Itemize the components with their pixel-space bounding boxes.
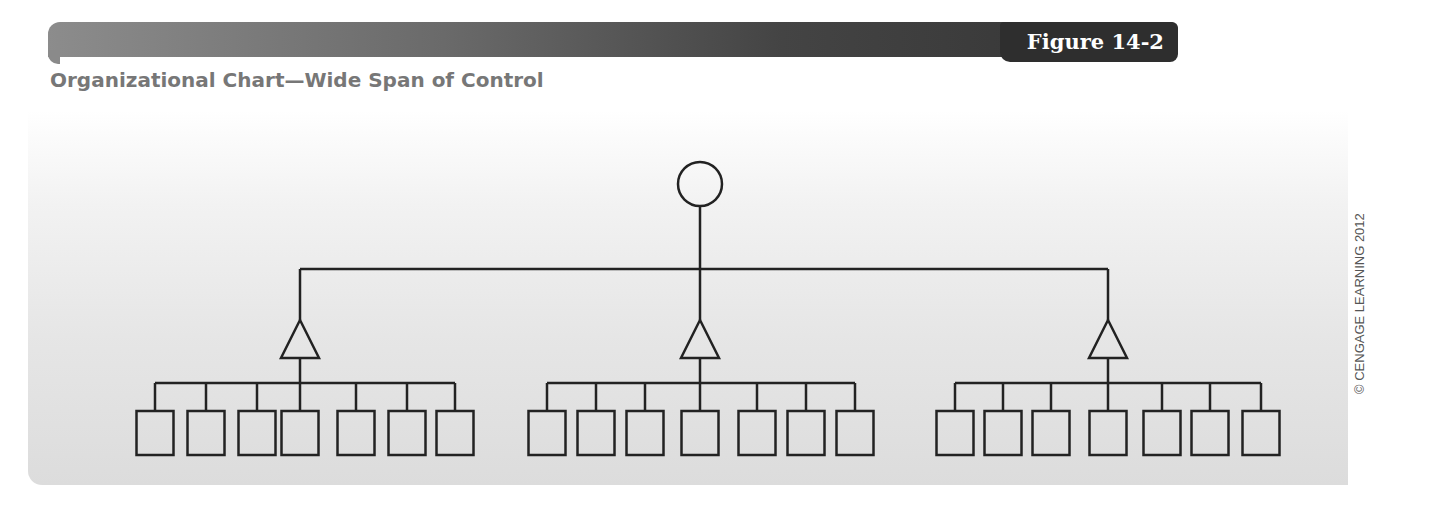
manager-triangle-node [281,320,319,358]
subordinate-box-node [739,411,776,455]
subordinate-box-node [937,411,974,455]
subordinate-box-node [188,411,225,455]
subordinate-box-node [1192,411,1229,455]
copyright-notice: © CENGAGE LEARNING 2012 [1352,213,1367,394]
subordinate-box-node [682,411,719,455]
org-chart-diagram [0,0,1431,509]
subordinate-box-node [627,411,664,455]
subordinate-box-node [985,411,1022,455]
subordinate-box-node [788,411,825,455]
subordinate-box-node [1144,411,1181,455]
subordinate-box-node [282,411,319,455]
manager-triangle-node [1089,320,1127,358]
subordinate-box-node [1243,411,1280,455]
subordinate-box-node [137,411,174,455]
subordinate-box-node [1033,411,1070,455]
subordinate-box-node [529,411,566,455]
subordinate-box-node [239,411,276,455]
executive-circle-node [678,162,722,206]
subordinate-box-node [437,411,474,455]
manager-triangle-node [681,320,719,358]
subordinate-box-node [389,411,426,455]
subordinate-box-node [338,411,375,455]
subordinate-box-node [837,411,874,455]
subordinate-box-node [1090,411,1127,455]
subordinate-box-node [578,411,615,455]
